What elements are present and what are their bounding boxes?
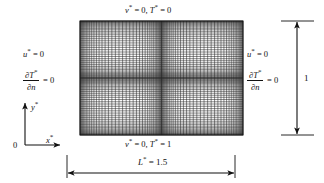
bc-bottom-label: v* = 0, T* = 1 xyxy=(125,138,171,149)
cfd-domain-figure: v* = 0, T* = 0 v* = 0, T* = 1 u* = 0 ∂T*… xyxy=(0,0,324,183)
bc-top-label: v* = 0, T* = 0 xyxy=(125,4,171,15)
fraction-denominator: ∂n xyxy=(23,82,39,92)
bc-right-temperature-gradient-label: ∂T* ∂n = 0 xyxy=(247,68,278,92)
fraction-denominator: ∂n xyxy=(247,82,263,92)
height-dimension-arrow xyxy=(281,21,314,135)
origin-label: 0 xyxy=(13,140,17,150)
fraction-stack: ∂T* ∂n xyxy=(247,68,263,92)
bc-left-temperature-gradient-label: ∂T* ∂n = 0 xyxy=(23,68,54,92)
width-dimension-label: L* = 1.5 xyxy=(138,155,167,167)
bc-right-velocity-label: u* = 0 xyxy=(247,48,268,59)
fraction-stack: ∂T* ∂n xyxy=(23,68,39,92)
bc-left-velocity-label: u* = 0 xyxy=(23,48,44,59)
fraction-equals: = 0 xyxy=(42,75,55,85)
fraction-equals: = 0 xyxy=(266,75,279,85)
y-axis-label: y* xyxy=(31,100,38,112)
fraction-numerator: ∂T* xyxy=(247,68,263,80)
fraction-numerator: ∂T* xyxy=(23,68,39,80)
height-dimension-label: 1 xyxy=(304,73,309,83)
x-axis-label: x* xyxy=(46,133,53,145)
